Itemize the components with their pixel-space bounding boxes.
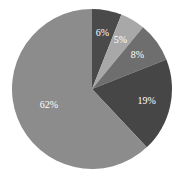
slice-label: 8% (131, 49, 144, 60)
slice-label: 6% (96, 27, 109, 38)
slice-label: 62% (40, 99, 58, 110)
slice-label: 19% (137, 95, 155, 106)
slice-label: 5% (114, 34, 127, 45)
pie-chart: 6%5%8%19%62% (0, 0, 183, 182)
